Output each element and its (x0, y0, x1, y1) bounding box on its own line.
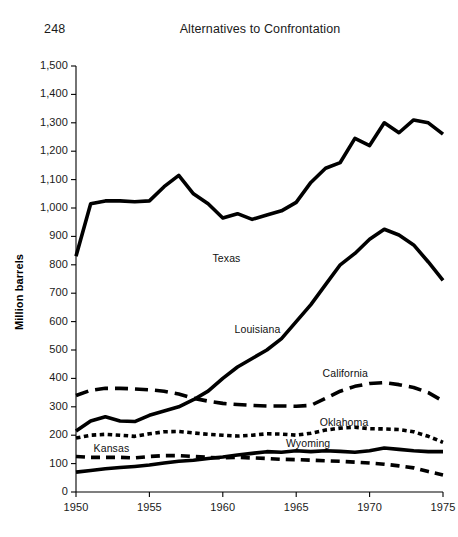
chart-axes (71, 66, 443, 497)
series-label-california: California (323, 367, 368, 379)
y-tick-label: 900 (14, 229, 68, 241)
y-tick-label: 400 (14, 371, 68, 383)
running-title: Alternatives to Confrontation (0, 22, 458, 36)
series-label-texas: Texas (213, 252, 241, 264)
series-line-oklahoma (76, 427, 443, 442)
y-tick-label: 1,300 (14, 116, 68, 128)
x-tick-label: 1960 (193, 501, 253, 513)
x-tick-label: 1955 (119, 501, 179, 513)
chart-series (76, 120, 443, 475)
y-tick-label: 1,100 (14, 173, 68, 185)
y-tick-label: 100 (14, 457, 68, 469)
x-tick-label: 1970 (340, 501, 400, 513)
y-tick-label: 1,400 (14, 87, 68, 99)
y-tick-label: 500 (14, 343, 68, 355)
series-label-wyoming: Wyoming (286, 437, 330, 449)
y-tick-label: 800 (14, 258, 68, 270)
y-tick-label: 700 (14, 286, 68, 298)
x-tick-label: 1965 (266, 501, 326, 513)
series-line-texas (76, 120, 443, 256)
y-tick-label: 600 (14, 315, 68, 327)
y-tick-label: 1,000 (14, 201, 68, 213)
running-head: 248 Alternatives to Confrontation (0, 22, 458, 40)
chart-plot-area (0, 48, 458, 537)
y-tick-label: 200 (14, 428, 68, 440)
series-line-wyoming (76, 448, 443, 472)
series-label-kansas: Kansas (94, 442, 130, 454)
x-tick-label: 1950 (46, 501, 106, 513)
y-tick-label: 0 (14, 485, 68, 497)
y-tick-label: 300 (14, 400, 68, 412)
x-tick-label: 1975 (413, 501, 458, 513)
series-line-california (76, 383, 443, 407)
series-label-oklahoma: Oklahoma (320, 416, 369, 428)
y-tick-label: 1,500 (14, 59, 68, 71)
y-tick-label: 1,200 (14, 144, 68, 156)
figure-oil-production-chart: Million barrels 010020030040050060070080… (0, 48, 458, 537)
page-root: 248 Alternatives to Confrontation Millio… (0, 0, 458, 537)
series-label-louisiana: Louisiana (235, 323, 281, 335)
